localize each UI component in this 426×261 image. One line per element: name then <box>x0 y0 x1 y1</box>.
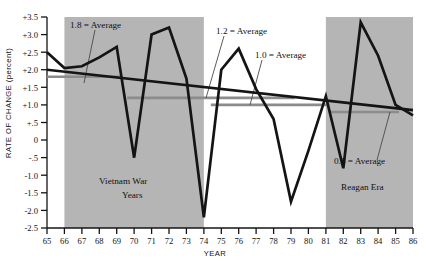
x-tick-label: 72 <box>165 236 174 246</box>
x-tick-label: 71 <box>147 236 156 246</box>
x-tick-label: 75 <box>217 236 226 246</box>
band-reagan-era <box>326 17 413 228</box>
x-tick-label: 86 <box>409 236 418 246</box>
y-tick-label: +1.0 <box>22 100 38 110</box>
x-tick-label: 79 <box>287 236 296 246</box>
rate-of-change-line-chart: +3.5 +3.0 +2.5 +2.0 +1.5 +1.0 +.5 0 -.5 … <box>0 0 426 261</box>
annotation-1-8-average: 1.8 = Average <box>70 20 121 30</box>
x-axis-title: YEAR <box>204 249 227 258</box>
annotation-1-2-average: 1.2 = Average <box>216 26 267 36</box>
x-tick-label: 84 <box>374 236 383 246</box>
y-tick-label: -1.0 <box>24 171 38 181</box>
x-tick-label: 85 <box>391 236 400 246</box>
annotation-1-0-average: 1.0 = Average <box>255 50 306 60</box>
x-tick-label: 78 <box>269 236 278 246</box>
annotation-0-8-average: 0.8 = Average <box>334 156 385 166</box>
x-tick-label: 77 <box>252 236 261 246</box>
x-tick-label: 66 <box>60 236 69 246</box>
y-tick-label: +2.5 <box>22 48 38 58</box>
x-tick-label: 74 <box>200 236 209 246</box>
y-tick-label: -1.5 <box>24 188 38 198</box>
x-tick-label: 69 <box>112 236 121 246</box>
y-axis-title: RATE OF CHANGE (percent) <box>4 48 13 158</box>
x-tick-label: 76 <box>234 236 243 246</box>
y-tick-label: +1.5 <box>22 83 38 93</box>
y-tick-label: +3.0 <box>22 30 38 40</box>
x-tick-label: 68 <box>95 236 104 246</box>
y-tick-label: +.5 <box>27 118 38 128</box>
y-tick-label: +2.0 <box>22 65 38 75</box>
x-tick-label: 80 <box>304 236 313 246</box>
band-label-vietnam-years: Years <box>122 190 143 200</box>
band-label-vietnam-war: Vietnam War <box>99 176 147 186</box>
band-label-reagan-era: Reagan Era <box>341 182 384 192</box>
x-tick-label: 65 <box>43 236 52 246</box>
x-tick-label: 67 <box>78 236 87 246</box>
x-tick-label: 83 <box>356 236 365 246</box>
x-tick-label: 73 <box>182 236 191 246</box>
y-tick-label: +3.5 <box>22 12 38 22</box>
y-tick-label: 0 <box>34 135 38 145</box>
x-tick-label: 82 <box>339 236 348 246</box>
chart-container: +3.5 +3.0 +2.5 +2.0 +1.5 +1.0 +.5 0 -.5 … <box>0 0 426 261</box>
x-tick-label: 81 <box>322 236 331 246</box>
y-tick-label: -2.0 <box>24 206 38 216</box>
y-tick-label: -2.5 <box>24 223 38 233</box>
x-tick-label: 70 <box>130 236 139 246</box>
y-tick-label: -.5 <box>29 153 38 163</box>
